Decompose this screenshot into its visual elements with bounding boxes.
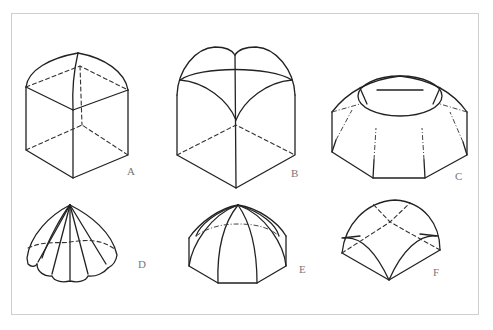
figure-c-octagonal-dome (332, 76, 467, 178)
figure-d-scalloped-dome (27, 205, 117, 282)
label-b: B (291, 168, 298, 179)
figure-a-cloister-vault (26, 53, 128, 178)
vault-diagrams (0, 0, 493, 330)
label-d: D (138, 259, 146, 270)
figure-b-groin-vault (177, 47, 295, 188)
label-c: C (455, 171, 462, 182)
label-e: E (299, 264, 306, 275)
figure-e-octagonal-dome (189, 205, 286, 283)
label-a: A (127, 166, 135, 177)
figure-f-sail-vault (342, 200, 440, 280)
label-f: F (433, 267, 439, 278)
